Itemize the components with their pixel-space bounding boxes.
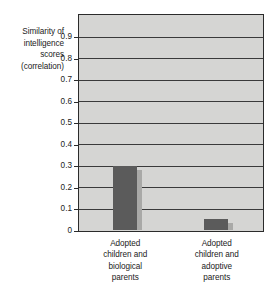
gridline-0.7 — [79, 80, 263, 81]
y-tick-label-0.7: 0.7 — [50, 76, 72, 84]
gridline-0.5 — [79, 123, 263, 124]
bar-shadow-1 — [228, 223, 233, 230]
y-tick-label-0.5: 0.5 — [50, 119, 72, 127]
category-0-line-4: parents — [82, 272, 168, 283]
bar-chart-figure: Similarity of intelligence scores (corre… — [0, 0, 276, 303]
bar-0 — [113, 166, 137, 231]
y-tick-label-0.2: 0.2 — [50, 184, 72, 192]
gridline-0.9 — [79, 37, 263, 38]
x-axis-category-label-1: Adopted children and adoptive parents — [174, 238, 260, 284]
category-0-line-2: children and — [82, 249, 168, 260]
gridline-0.2 — [79, 187, 263, 188]
category-0-line-3: biological — [82, 261, 168, 272]
gridline-0.6 — [79, 101, 263, 102]
y-tick-label-0.8: 0.8 — [50, 55, 72, 63]
gridline-0.1 — [79, 209, 263, 210]
y-tick-label-0.3: 0.3 — [50, 162, 72, 170]
y-tick-label-0.4: 0.4 — [50, 141, 72, 149]
gridline-0.4 — [79, 144, 263, 145]
x-axis-category-label-0: Adopted children and biological parents — [82, 238, 168, 284]
category-1-line-1: Adopted — [174, 238, 260, 249]
y-tick-label-0: 0 — [50, 227, 72, 235]
category-1-line-2: children and — [174, 249, 260, 260]
plot-area — [78, 14, 264, 232]
gridline-0.3 — [79, 166, 263, 167]
category-1-line-4: parents — [174, 272, 260, 283]
y-tick-label-0.9: 0.9 — [50, 33, 72, 41]
category-1-line-3: adoptive — [174, 261, 260, 272]
category-0-line-1: Adopted — [82, 238, 168, 249]
y-tick-label-0.6: 0.6 — [50, 98, 72, 106]
gridline-0.8 — [79, 58, 263, 59]
bar-1 — [204, 219, 228, 230]
y-tick-label-0.1: 0.1 — [50, 205, 72, 213]
bar-shadow-0 — [137, 170, 142, 231]
